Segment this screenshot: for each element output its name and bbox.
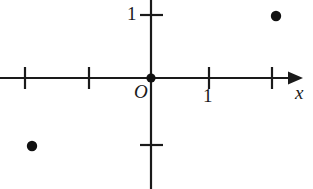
x-axis-label: x	[295, 83, 303, 102]
data-point-upper-right	[271, 11, 281, 21]
coordinate-plane-svg	[0, 0, 313, 189]
y-axis-tick-label-1: 1	[127, 4, 137, 23]
x-axis-tick-label-1: 1	[203, 86, 213, 105]
origin-label: O	[134, 82, 148, 101]
coordinate-plane-figure: 1 1 O x	[0, 0, 313, 189]
data-point-lower-left	[27, 141, 37, 151]
